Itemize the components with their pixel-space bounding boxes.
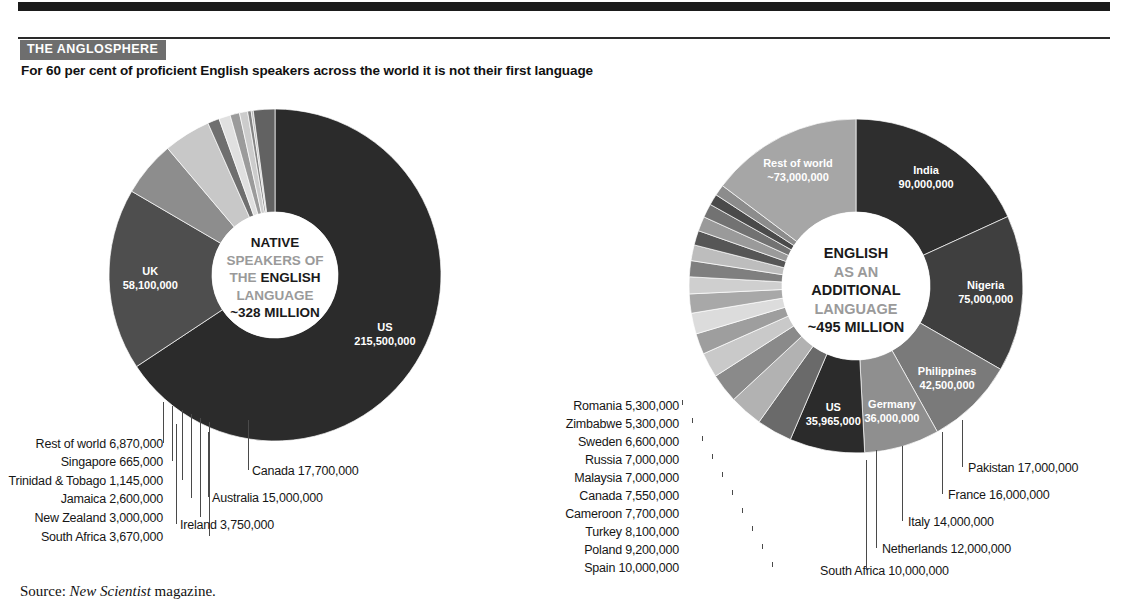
hub-text-line: NATIVE <box>251 235 300 250</box>
callout-name: Italy <box>908 515 930 529</box>
slice-label-value: 36,000,000 <box>864 412 919 424</box>
callout-label: Rest of world 6,870,000 <box>36 438 163 451</box>
source-prefix: Source: <box>20 583 66 599</box>
callout-value: 15,000,000 <box>259 491 323 505</box>
leader-line <box>712 454 713 459</box>
callout-label: Malaysia 7,000,000 <box>574 472 679 485</box>
callout-name: Canada <box>579 489 622 503</box>
callout-value: 5,300,000 <box>622 417 679 431</box>
slice-label-name: UK <box>142 265 158 277</box>
callout-name: South Africa <box>41 530 106 544</box>
callout-label: Netherlands 12,000,000 <box>882 543 1011 556</box>
leader-line <box>732 490 733 495</box>
leader-line <box>200 418 201 517</box>
hub-text-line: ENGLISH <box>824 245 888 261</box>
source-line: Source: New Scientist magazine. <box>20 583 216 600</box>
source-publication: New Scientist <box>70 583 151 599</box>
callout-value: 6,600,000 <box>622 435 679 449</box>
callout-value: 9,200,000 <box>622 543 679 557</box>
callout-name: Australia <box>212 491 259 505</box>
donut-chart-native-speakers: US215,500,000UK58,100,000NATIVESPEAKERS … <box>109 109 441 441</box>
leader-line <box>176 424 177 524</box>
callout-name: Russia <box>585 453 622 467</box>
slice-label-name: Nigeria <box>967 279 1005 291</box>
callout-label: Sweden 6,600,000 <box>578 436 679 449</box>
callout-label: South Africa 10,000,000 <box>820 565 949 578</box>
callout-value: 7,000,000 <box>622 453 679 467</box>
callout-value: 7,550,000 <box>622 489 679 503</box>
source-suffix: magazine. <box>155 583 216 599</box>
hub-text-line: ~495 MILLION <box>808 319 904 335</box>
callout-value: 10,000,000 <box>885 564 949 578</box>
callout-label: Zimbabwe 5,300,000 <box>566 418 679 431</box>
callout-label: South Africa 3,670,000 <box>41 531 163 544</box>
slice-label-value: 58,100,000 <box>123 279 178 291</box>
callout-name: Malaysia <box>574 471 622 485</box>
slice-label-value: 75,000,000 <box>958 293 1013 305</box>
callout-label: Australia 15,000,000 <box>212 492 323 505</box>
leader-line <box>866 460 867 570</box>
callout-name: Sweden <box>578 435 622 449</box>
callout-value: 5,300,000 <box>622 399 679 413</box>
callout-value: 3,670,000 <box>106 530 163 544</box>
callout-label: Italy 14,000,000 <box>908 516 994 529</box>
leader-line <box>248 420 249 470</box>
callout-label: Jamaica 2,600,000 <box>61 493 163 506</box>
leader-line <box>692 418 693 423</box>
callout-value: 665,000 <box>116 455 163 469</box>
callout-label: Ireland 3,750,000 <box>180 519 274 532</box>
callout-name: South Africa <box>820 564 885 578</box>
callout-value: 7,700,000 <box>622 507 679 521</box>
hub-text-line: ADDITIONAL <box>811 282 901 298</box>
callout-name: Trinidad & Tobago <box>9 474 106 488</box>
callout-name: Netherlands <box>882 542 947 556</box>
callout-label: Romania 5,300,000 <box>573 400 679 413</box>
hub-text-line: ~328 MILLION <box>230 305 320 320</box>
hub-text-line: THE ENGLISH <box>230 270 321 285</box>
hub-text-line: LANGUAGE <box>236 288 313 303</box>
callout-name: Rest of world <box>36 437 106 451</box>
callout-label: Canada 17,700,000 <box>252 465 358 478</box>
leader-line <box>876 450 877 548</box>
callout-value: 6,870,000 <box>106 437 163 451</box>
callout-name: Singapore <box>61 455 116 469</box>
leader-line <box>902 446 903 521</box>
leader-line <box>172 406 173 461</box>
hub-text-line: AS AN <box>834 264 879 280</box>
donut-chart-additional-language: India90,000,000Nigeria75,000,000Philippi… <box>689 119 1023 453</box>
callout-name: Poland <box>584 543 622 557</box>
hub-text-line: LANGUAGE <box>815 301 898 317</box>
leader-line <box>682 400 683 405</box>
callout-value: 10,000,000 <box>615 561 679 575</box>
slice-label-name: India <box>913 164 940 176</box>
slice-label-value: 42,500,000 <box>920 379 975 391</box>
leader-line <box>722 472 723 477</box>
callout-name: Canada <box>252 464 295 478</box>
callout-name: Pakistan <box>968 461 1014 475</box>
callout-label: Spain 10,000,000 <box>584 562 679 575</box>
callout-label: Pakistan 17,000,000 <box>968 462 1078 475</box>
callout-name: New Zealand <box>34 511 105 525</box>
slice-label-name: US <box>826 401 841 413</box>
leader-line <box>208 432 209 497</box>
slice-label-value: ~73,000,000 <box>767 171 828 183</box>
callout-name: Ireland <box>180 518 217 532</box>
callout-label: Cameroon 7,700,000 <box>565 508 679 521</box>
leader-line <box>182 410 183 480</box>
callout-label: Trinidad & Tobago 1,145,000 <box>9 475 163 488</box>
slice-label-value: 90,000,000 <box>899 178 954 190</box>
leader-line <box>742 508 743 513</box>
callout-label: Turkey 8,100,000 <box>585 526 679 539</box>
callout-value: 12,000,000 <box>947 542 1011 556</box>
slice-label-value: 215,500,000 <box>354 335 415 347</box>
callout-value: 1,145,000 <box>106 474 163 488</box>
callout-value: 14,000,000 <box>930 515 994 529</box>
callout-label: France 16,000,000 <box>948 489 1050 502</box>
leader-line <box>702 436 703 441</box>
callout-name: Cameroon <box>565 507 622 521</box>
callout-name: Turkey <box>585 525 622 539</box>
leader-line <box>191 414 192 498</box>
callout-value: 2,600,000 <box>106 492 163 506</box>
callout-value: 8,100,000 <box>622 525 679 539</box>
callout-name: Romania <box>573 399 622 413</box>
